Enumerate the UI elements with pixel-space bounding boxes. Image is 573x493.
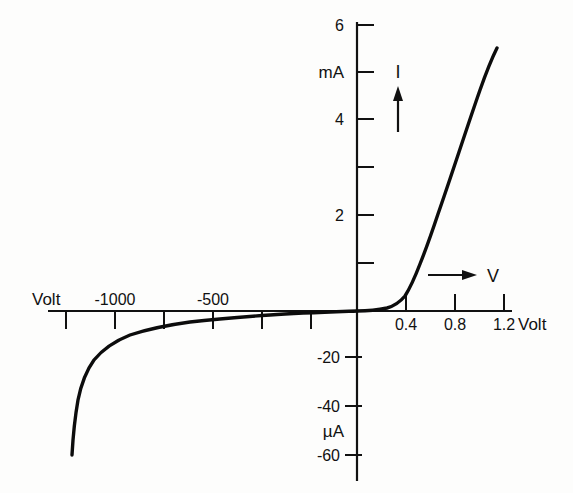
- x-axis-unit-right-volt: Volt: [518, 315, 547, 334]
- reverse-breakdown-branch: [72, 311, 357, 455]
- voltage-direction-arrow: [428, 270, 477, 280]
- diode-iv-chart: 6 4 2 mA I V -20 -40 -60 µA Volt -1000 -…: [0, 0, 573, 493]
- x-label-1p2: 1.2: [493, 316, 515, 333]
- y-axis-negative-ticks: [345, 357, 362, 455]
- y-axis-unit-uA: µA: [323, 422, 345, 441]
- x-label-0p8: 0.8: [444, 316, 466, 333]
- x-label-0p4: 0.4: [395, 316, 417, 333]
- arrow-right-head: [462, 270, 477, 280]
- x-label-minus500: -500: [197, 291, 229, 308]
- forward-conduction-branch: [357, 48, 497, 311]
- y-label-6: 6: [335, 17, 344, 34]
- x-axis-unit-left-volt: Volt: [32, 290, 61, 309]
- current-symbol-label: I: [395, 62, 400, 82]
- y-label-minus60: -60: [317, 447, 340, 464]
- y-axis-positive-ticks: [357, 25, 374, 263]
- current-direction-arrow: [393, 86, 403, 132]
- y-label-minus40: -40: [317, 398, 340, 415]
- figure-container: 6 4 2 mA I V -20 -40 -60 µA Volt -1000 -…: [0, 0, 573, 493]
- y-label-4: 4: [335, 111, 344, 128]
- y-label-minus20: -20: [317, 349, 340, 366]
- axes-group: [48, 22, 512, 481]
- y-axis-unit-mA: mA: [319, 63, 345, 82]
- voltage-symbol-label: V: [487, 266, 499, 286]
- x-label-minus1000: -1000: [95, 291, 136, 308]
- arrow-up-head: [393, 86, 403, 101]
- y-label-2: 2: [335, 207, 344, 224]
- x-axis-right-ticks: [406, 294, 504, 311]
